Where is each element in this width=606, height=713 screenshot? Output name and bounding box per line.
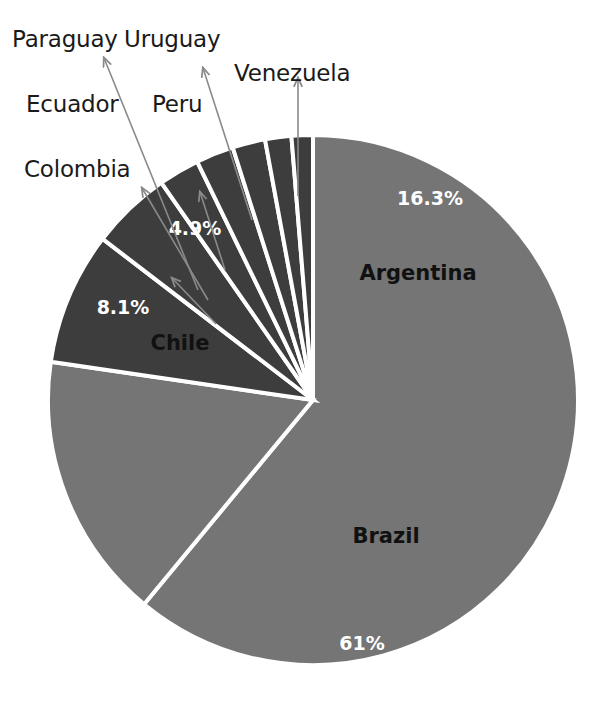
argentina-percent-label: 16.3% bbox=[397, 187, 463, 209]
argentina-name-label: Argentina bbox=[359, 261, 476, 285]
brazil-name-label: Brazil bbox=[352, 524, 419, 548]
callout-label-uruguay: Uruguay bbox=[124, 26, 220, 52]
pie-chart-figure: 16.3% Argentina Brazil 61% 8.1% Chile 4.… bbox=[0, 0, 606, 713]
pie-slices bbox=[48, 135, 578, 665]
chile-percent-label: 8.1% bbox=[97, 296, 150, 318]
brazil-percent-label: 61% bbox=[339, 632, 384, 654]
callout-label-venezuela: Venezuela bbox=[234, 60, 350, 86]
callout-label-ecuador: Ecuador bbox=[26, 91, 119, 117]
callout-label-peru: Peru bbox=[152, 91, 202, 117]
chile-name-label: Chile bbox=[150, 331, 209, 355]
callout-label-colombia: Colombia bbox=[24, 156, 130, 182]
callout-label-paraguay: Paraguay bbox=[12, 26, 118, 52]
